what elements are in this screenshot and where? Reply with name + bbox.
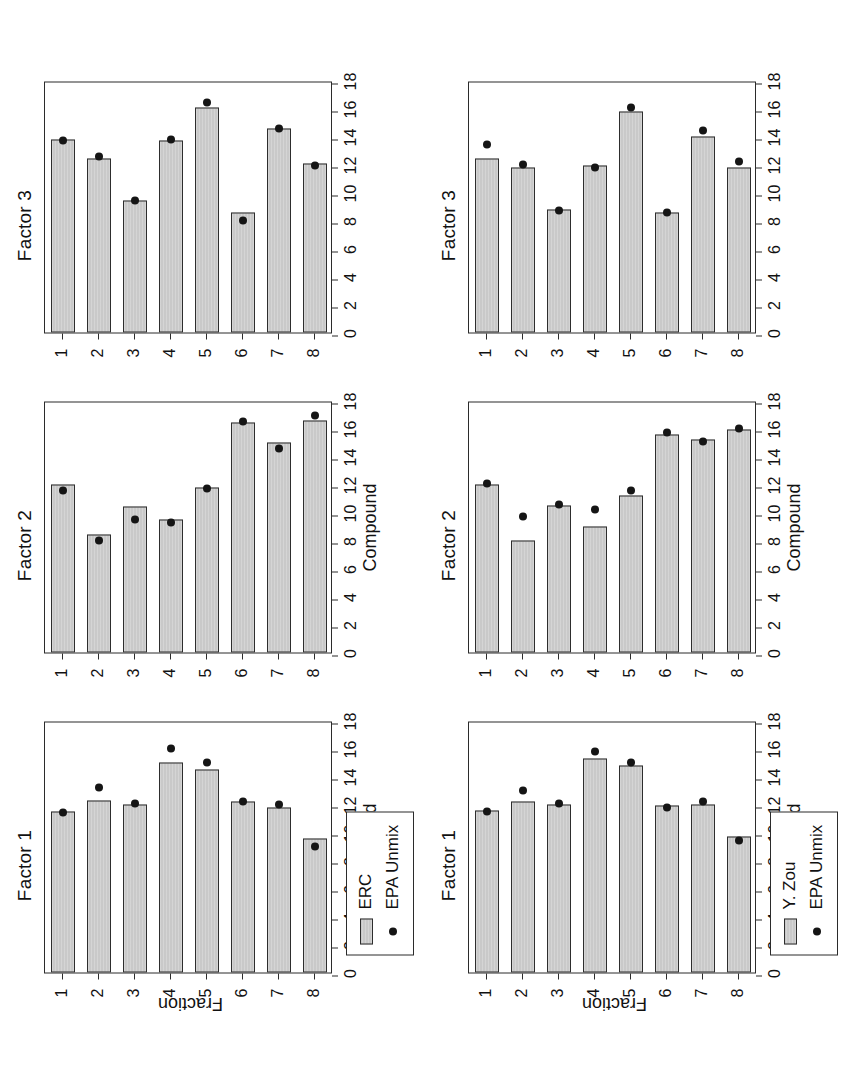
category-tick (134, 973, 135, 979)
legend-bar-label: Y. Zou (780, 861, 800, 909)
value-tick-label: 6 (342, 245, 360, 254)
value-tick (332, 947, 338, 948)
category-tick (630, 333, 631, 339)
category-tick (558, 333, 559, 339)
category-tick (206, 973, 207, 979)
legend-point-label: EPA Unmix (383, 824, 403, 909)
category-tick-label: 8 (729, 988, 747, 997)
value-tick (756, 947, 762, 948)
x-axis-title: Compound (784, 401, 805, 653)
point-marker-7 (699, 437, 707, 445)
bar-6 (231, 212, 255, 332)
category-tick (206, 333, 207, 339)
bar-2 (87, 158, 111, 332)
bar-group (475, 80, 499, 332)
category-tick (738, 973, 739, 979)
value-tick (756, 863, 762, 864)
bar-1 (475, 810, 499, 972)
value-tick (332, 543, 338, 544)
legend-row1: ERC EPA Unmix (346, 811, 414, 955)
value-tick-label: 12 (342, 156, 360, 174)
panel-row1-factor2: Factor 2 024681012141618 12345678 Compou… (8, 395, 408, 695)
category-tick (666, 973, 667, 979)
category-tick-label: 1 (53, 668, 71, 677)
value-tick-label: 8 (342, 217, 360, 226)
category-tick (62, 653, 63, 659)
value-tick (332, 655, 338, 656)
y-axis-title: Fraction (111, 993, 271, 1014)
bar-group (547, 720, 571, 972)
panel-title: Factor 1 (438, 715, 460, 1015)
point-marker-7 (275, 800, 283, 808)
value-tick (332, 403, 338, 404)
category-tick (702, 653, 703, 659)
category-tick-label: 8 (729, 348, 747, 357)
figure-rotation-wrapper: Factor 1 024681012141618 12345678 Compou… (0, 0, 866, 1073)
category-tick (594, 973, 595, 979)
plot-area (44, 721, 332, 973)
bar-8 (727, 836, 751, 972)
category-tick-label: 5 (621, 348, 639, 357)
bar-group (195, 720, 219, 972)
value-tick (756, 487, 762, 488)
bar-5 (619, 111, 643, 332)
value-tick-label: 4 (766, 273, 784, 282)
category-tick (170, 653, 171, 659)
bar-group (619, 400, 643, 652)
bar-group (87, 720, 111, 972)
bar-6 (231, 801, 255, 972)
bar-1 (51, 484, 75, 652)
value-tick-label: 0 (766, 329, 784, 338)
bar-group (87, 80, 111, 332)
plot-area (468, 81, 756, 333)
bar-group (195, 400, 219, 652)
bar-7 (691, 136, 715, 332)
bars-layer (469, 402, 755, 652)
point-marker-3 (555, 799, 563, 807)
value-tick-label: 18 (766, 392, 784, 410)
point-marker-8 (311, 842, 319, 850)
category-tick (98, 653, 99, 659)
value-tick-label: 16 (342, 740, 360, 758)
category-tick (702, 973, 703, 979)
point-marker-3 (131, 515, 139, 523)
legend-bar-label: ERC (356, 873, 376, 909)
value-tick-label: 6 (342, 565, 360, 574)
value-tick-label: 6 (766, 565, 784, 574)
category-tick-label: 5 (197, 668, 215, 677)
category-tick-label: 6 (233, 668, 251, 677)
panel-title: Factor 2 (438, 395, 460, 695)
legend-point-label: EPA Unmix (807, 824, 827, 909)
bar-group (511, 80, 535, 332)
legend-bar-swatch-icon (360, 918, 373, 944)
point-marker-5 (203, 484, 211, 492)
value-tick-label: 16 (766, 740, 784, 758)
value-tick (756, 223, 762, 224)
bar-2 (87, 534, 111, 652)
category-tick-label: 4 (161, 348, 179, 357)
value-tick (756, 279, 762, 280)
point-marker-1 (483, 807, 491, 815)
bar-group (267, 80, 291, 332)
category-tick (98, 973, 99, 979)
point-marker-7 (275, 444, 283, 452)
value-tick (332, 835, 338, 836)
bar-group (691, 400, 715, 652)
category-tick (242, 973, 243, 979)
bar-3 (547, 804, 571, 972)
bar-group (655, 400, 679, 652)
category-tick (666, 333, 667, 339)
value-tick-label: 10 (766, 184, 784, 202)
point-marker-2 (519, 786, 527, 794)
panel-title: Factor 3 (14, 75, 36, 375)
bars-layer (45, 402, 331, 652)
value-tick-label: 0 (342, 969, 360, 978)
panel-row2-factor2: Factor 2 024681012141618 12345678 Compou… (432, 395, 832, 695)
bar-group (159, 400, 183, 652)
category-tick (314, 653, 315, 659)
bar-group (691, 80, 715, 332)
value-tick (332, 723, 338, 724)
panel-title: Factor 3 (438, 75, 460, 375)
value-tick (332, 431, 338, 432)
category-tick-label: 2 (89, 668, 107, 677)
